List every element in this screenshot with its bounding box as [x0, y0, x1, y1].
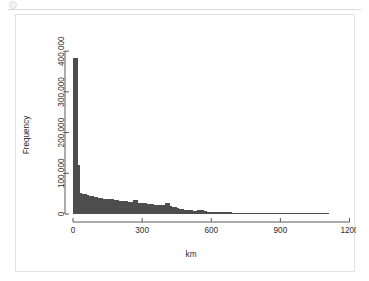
x-axis: 03006009001200: [71, 218, 356, 235]
histogram-bar: [278, 213, 280, 214]
histogram-svg: 03006009001200 0100,000200,000300,000400…: [16, 15, 356, 273]
histogram-bar: [128, 202, 130, 214]
histogram-bar: [202, 210, 204, 214]
histogram-bar: [310, 213, 312, 214]
histogram-bar: [253, 213, 255, 214]
histogram-bar: [225, 212, 227, 214]
histogram-bar: [313, 213, 315, 214]
histogram-bar: [276, 213, 278, 214]
histogram-plot: 03006009001200 0100,000200,000300,000400…: [16, 15, 356, 273]
histogram-bar: [216, 212, 218, 214]
histogram-bar: [241, 213, 243, 214]
histogram-bar: [306, 213, 308, 214]
x-axis-tick-label: 1200: [340, 226, 356, 235]
histogram-bar: [271, 213, 273, 214]
histogram-bar: [147, 204, 149, 214]
histogram-bar: [186, 210, 188, 214]
histogram-bar: [230, 212, 232, 214]
histogram-bar: [244, 213, 246, 214]
histogram-bar: [324, 213, 326, 214]
histogram-bar: [287, 213, 289, 214]
histogram-bar: [301, 213, 303, 214]
figure-panel: 03006009001200 0100,000200,000300,000400…: [15, 14, 355, 272]
y-axis: 0100,000200,000300,000400,000: [57, 36, 69, 216]
histogram-bar: [170, 206, 172, 214]
histogram-bar: [290, 213, 292, 214]
y-axis-tick-label: 100,000: [57, 158, 66, 188]
histogram-bar: [237, 213, 239, 214]
x-axis-tick-label: 300: [135, 226, 149, 235]
histogram-bar: [119, 201, 121, 214]
histogram-bar: [131, 202, 133, 214]
y-axis-tick-label: 0: [57, 211, 66, 216]
y-axis-tick-label: 300,000: [57, 77, 66, 107]
top-strip: [0, 0, 369, 12]
y-axis-title: Frequency: [22, 115, 31, 155]
histogram-bar: [220, 212, 222, 214]
histogram-bar: [218, 212, 220, 214]
histogram-bar: [200, 210, 202, 214]
histogram-bar: [255, 213, 257, 214]
histogram-bar: [110, 199, 112, 214]
histogram-bar: [239, 213, 241, 214]
histogram-bar: [260, 213, 262, 214]
histogram-bar: [246, 213, 248, 214]
histogram-bar: [294, 213, 296, 214]
histogram-bar: [103, 199, 105, 214]
histogram-bar: [292, 213, 294, 214]
histogram-bar: [303, 213, 305, 214]
histogram-bar: [315, 213, 317, 214]
histogram-bar: [112, 199, 114, 214]
histogram-bar: [285, 213, 287, 214]
histogram-bar: [214, 212, 216, 214]
histogram-bar: [140, 203, 142, 214]
horizontal-divider: [8, 9, 361, 10]
histogram-bar: [223, 212, 225, 214]
y-axis-tick-label: 400,000: [57, 36, 66, 66]
histogram-bar: [317, 213, 319, 214]
histogram-bar: [144, 203, 146, 214]
histogram-bar: [114, 200, 116, 214]
histogram-bar: [280, 213, 282, 214]
histogram-bar: [269, 213, 271, 214]
histogram-bar: [117, 200, 119, 214]
histogram-bar: [75, 58, 77, 214]
histogram-bar: [177, 208, 179, 214]
histogram-bar: [232, 213, 234, 214]
histogram-bar: [197, 210, 199, 214]
histogram-bar: [172, 207, 174, 214]
y-axis-tick-label: 200,000: [57, 117, 66, 147]
histogram-bar: [133, 200, 135, 214]
histogram-bar: [179, 209, 181, 214]
histogram-bar: [142, 203, 144, 214]
histogram-bar: [267, 213, 269, 214]
histogram-bar: [124, 201, 126, 214]
x-axis-tick-label: 900: [274, 226, 288, 235]
histogram-bar: [308, 213, 310, 214]
histogram-bar: [163, 205, 165, 214]
histogram-bar: [191, 210, 193, 214]
histogram-bar: [174, 207, 176, 214]
histogram-bar: [158, 205, 160, 214]
histogram-bars: [73, 58, 329, 214]
histogram-bar: [78, 165, 80, 214]
histogram-bar: [87, 195, 89, 214]
histogram-bar: [211, 212, 213, 214]
histogram-bar: [250, 213, 252, 214]
histogram-bar: [85, 194, 87, 214]
histogram-bar: [209, 212, 211, 214]
histogram-bar: [207, 212, 209, 214]
histogram-bar: [320, 213, 322, 214]
histogram-bar: [195, 211, 197, 214]
histogram-bar: [248, 213, 250, 214]
histogram-bar: [322, 213, 324, 214]
histogram-bar: [273, 213, 275, 214]
histogram-bar: [193, 211, 195, 214]
histogram-bar: [98, 198, 100, 214]
histogram-bar: [138, 203, 140, 214]
histogram-bar: [227, 212, 229, 214]
histogram-bar: [165, 203, 167, 214]
histogram-bar: [89, 196, 91, 214]
histogram-bar: [204, 211, 206, 214]
histogram-bar: [264, 213, 266, 214]
